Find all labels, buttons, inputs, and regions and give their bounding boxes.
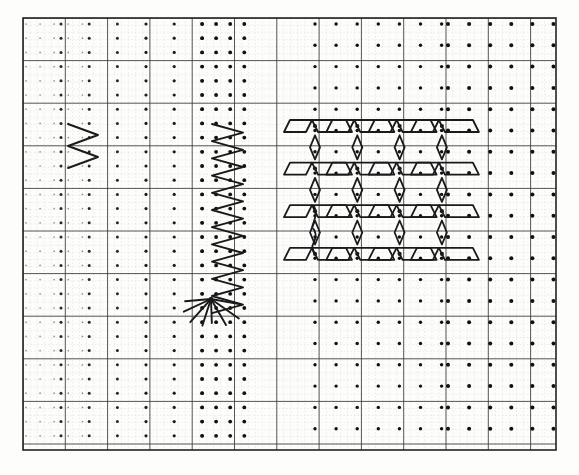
lattice-dot: [242, 207, 246, 211]
lattice-dot: [116, 335, 119, 338]
lattice-dot: [82, 321, 84, 323]
lattice-dot: [67, 179, 69, 181]
lattice-dot: [53, 123, 55, 125]
lattice-dot: [509, 256, 513, 260]
lattice-dot: [173, 250, 176, 253]
lattice-dot: [116, 363, 119, 366]
lattice-dot: [82, 236, 84, 238]
lattice-dot: [173, 93, 176, 96]
lattice-dot: [419, 108, 422, 111]
lattice-dot: [82, 250, 84, 252]
lattice-dot: [82, 336, 84, 338]
lattice-dot: [242, 391, 246, 395]
lattice-dot: [67, 165, 69, 167]
lattice-dot: [173, 221, 176, 224]
lattice-dot: [446, 43, 450, 47]
lattice-dot: [173, 406, 176, 409]
lattice-dot: [25, 321, 27, 323]
lattice-dot: [334, 108, 337, 111]
lattice-dot: [116, 307, 119, 310]
lattice-dot: [214, 335, 218, 339]
lattice-dot: [116, 179, 119, 182]
lattice-dot: [144, 37, 147, 40]
lattice-dot: [82, 194, 84, 196]
lattice-dot: [116, 264, 119, 267]
lattice-dot: [53, 421, 55, 423]
lattice-dot: [552, 256, 556, 260]
lattice-dot: [509, 214, 513, 218]
lattice-dot: [356, 108, 359, 111]
lattice-dot: [82, 94, 84, 96]
lattice-dot: [60, 278, 63, 281]
lattice-dot: [60, 51, 63, 54]
lattice-dot: [313, 108, 316, 111]
lattice-dot: [242, 65, 246, 69]
lattice-dot: [60, 335, 63, 338]
lattice-dot: [446, 278, 450, 282]
lattice-dot: [356, 299, 359, 302]
lattice-dot: [144, 335, 147, 338]
page-background: [0, 0, 579, 475]
lattice-dot: [440, 86, 443, 89]
lattice-dot: [60, 94, 63, 97]
lattice-dot: [144, 179, 147, 182]
lattice-dot: [39, 194, 41, 196]
lattice-dot: [88, 278, 91, 281]
lattice-dot: [488, 405, 492, 409]
lattice-dot: [228, 292, 232, 296]
lattice-dot: [530, 320, 534, 324]
lattice-dot: [440, 65, 443, 68]
lattice-dot: [446, 363, 450, 367]
lattice-dot: [60, 108, 63, 111]
lattice-dot: [67, 194, 69, 196]
lattice-dot: [39, 392, 41, 394]
lattice-dot: [173, 420, 176, 423]
lattice-dot: [82, 23, 84, 25]
lattice-dot: [173, 37, 176, 40]
lattice-dot: [377, 65, 380, 68]
lattice-dot: [214, 150, 218, 154]
lattice-dot: [82, 208, 84, 210]
lattice-dot: [82, 108, 84, 110]
lattice-dot: [552, 129, 556, 133]
lattice-dot: [67, 151, 69, 153]
lattice-dot: [242, 420, 246, 424]
lattice-dot: [200, 278, 204, 282]
lattice-dot: [419, 384, 422, 387]
lattice-dot: [552, 192, 556, 196]
lattice-dot: [467, 384, 471, 388]
lattice-dot: [419, 321, 422, 324]
lattice-dot: [377, 342, 380, 345]
lattice-dot: [398, 22, 401, 25]
lattice-dot: [39, 265, 41, 267]
lattice-dot: [173, 434, 176, 437]
lattice-dot: [214, 22, 218, 26]
lattice-dot: [377, 150, 380, 153]
lattice-dot: [88, 23, 91, 26]
lattice-dot: [419, 65, 422, 68]
lattice-dot: [60, 420, 63, 423]
lattice-dot: [116, 94, 119, 97]
lattice-dot: [173, 377, 176, 380]
lattice-dot: [228, 406, 232, 410]
lattice-dot: [214, 349, 218, 353]
lattice-dot: [488, 363, 492, 367]
lattice-dot: [313, 384, 316, 387]
lattice-dot: [530, 150, 534, 154]
lattice-dot: [214, 51, 218, 55]
lattice-dot: [313, 193, 316, 196]
lattice-dot: [60, 307, 63, 310]
lattice-dot: [552, 299, 556, 303]
lattice-dot: [67, 378, 69, 380]
lattice-dot: [419, 278, 422, 281]
lattice-dot: [509, 129, 513, 133]
lattice-dot: [173, 79, 176, 82]
lattice-dot: [530, 214, 534, 218]
lattice-dot: [488, 278, 492, 282]
lattice-dot: [467, 342, 471, 346]
lattice-dot: [228, 420, 232, 424]
lattice-dot: [200, 150, 204, 154]
lattice-dot: [356, 342, 359, 345]
lattice-dot: [116, 349, 119, 352]
lattice-dot: [440, 22, 443, 25]
